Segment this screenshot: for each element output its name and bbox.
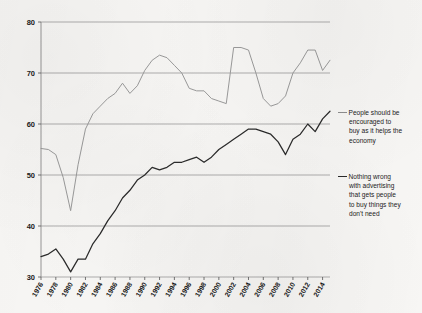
legend-entry-line: Nothing wrong (338, 172, 416, 181)
legend-entry-line: People should be (338, 108, 416, 117)
x-tick-label: 1988 (119, 281, 133, 298)
x-tick-label: 2014 (312, 281, 326, 298)
series-lines (41, 48, 330, 272)
x-tick-label: 1992 (149, 281, 163, 298)
legend-line-swatch-gray (338, 112, 347, 113)
x-tick-label: 1998 (194, 281, 208, 298)
legend-entry-line: with advertising (338, 181, 416, 190)
x-tick-label: 1994 (164, 281, 178, 298)
x-tick-label: 1978 (45, 281, 59, 298)
x-tick-label: 1986 (105, 281, 119, 298)
legend-entry-line: encouraged to (338, 117, 416, 126)
y-tick-label: 80 (27, 18, 35, 27)
x-tick-label: 1990 (134, 281, 148, 298)
x-tick-label: 2006 (253, 281, 267, 298)
legend-entry-line: to buy things they (338, 200, 416, 209)
legend-entry-line: economy (338, 136, 416, 145)
x-tick-label: 1982 (75, 281, 89, 298)
line-chart: 304050607080 197619781980198219841986198… (0, 0, 422, 313)
x-tick-label: 2004 (238, 281, 252, 298)
legend-entry-line: buy as it helps the (338, 126, 416, 135)
series-line-encourage-buy (41, 48, 330, 211)
y-tick-label: 70 (27, 69, 35, 78)
x-tick-marks (41, 277, 323, 280)
x-tick-label: 1984 (90, 281, 104, 298)
legend-label-text: People should be (349, 109, 400, 116)
legend-item-encourage-buy: People should be encouraged to buy as it… (338, 108, 416, 145)
y-tick-marks (38, 22, 41, 277)
legend-item-advertising: Nothing wrong with advertising that gets… (338, 172, 416, 218)
x-tick-label: 1996 (179, 281, 193, 298)
y-tick-label: 30 (27, 273, 35, 282)
x-tick-label: 1980 (60, 281, 74, 298)
x-tick-label: 1976 (31, 281, 45, 298)
x-tick-label: 2008 (268, 281, 282, 298)
legend-line-swatch-black (338, 176, 347, 177)
x-tick-label: 2002 (223, 281, 237, 298)
y-gridlines (41, 22, 330, 277)
legend-entry-line: that gets people (338, 190, 416, 199)
y-tick-label: 50 (27, 171, 35, 180)
chart-page: 304050607080 197619781980198219841986198… (0, 0, 422, 313)
legend-entry-line: don't need (338, 209, 416, 218)
x-tick-label: 2000 (208, 281, 222, 298)
y-tick-label: 40 (27, 222, 35, 231)
legend-label-text: Nothing wrong (349, 173, 392, 180)
x-axis-labels: 1976197819801982198419861988199019921994… (31, 281, 326, 298)
y-tick-label: 60 (27, 120, 35, 129)
x-tick-label: 2012 (297, 281, 311, 298)
x-tick-label: 2010 (282, 281, 296, 298)
y-axis-labels: 304050607080 (27, 18, 35, 282)
